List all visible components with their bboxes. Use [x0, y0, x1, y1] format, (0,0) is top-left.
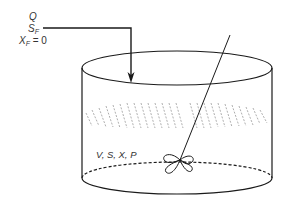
liquid-surface-hatch [86, 103, 267, 128]
impeller-icon [164, 155, 194, 174]
flow-rate-label: Q [29, 11, 37, 22]
bioreactor-diagram: Q SF XF = 0 [0, 0, 285, 210]
vessel-contents-label: V, S, X, P [96, 149, 137, 160]
feed-substrate-label: SF [28, 23, 40, 35]
feed-arrow [43, 28, 131, 76]
feed-biomass-label: XF = 0 [18, 35, 47, 47]
vessel-top-rim [82, 51, 272, 85]
vessel-bottom-back [82, 162, 272, 178]
feed-labels: Q SF XF = 0 [18, 11, 47, 47]
vessel-bottom-front [82, 178, 272, 194]
stirrer-shaft [180, 35, 230, 160]
